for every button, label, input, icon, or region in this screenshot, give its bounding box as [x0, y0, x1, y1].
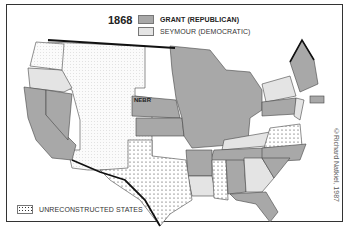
midwest-republican [170, 46, 262, 148]
state-rhode-island-callout [310, 96, 324, 103]
state-washington [30, 42, 64, 70]
state-new-york [262, 76, 296, 102]
state-florida [230, 192, 278, 222]
legend-label-republican: GRANT (REPUBLICAN) [160, 16, 239, 23]
state-mississippi [212, 160, 228, 200]
state-new-jersey [294, 98, 304, 120]
state-virginia [264, 124, 302, 148]
democratic-swatch [138, 27, 154, 36]
state-alabama [226, 160, 246, 194]
state-kansas [136, 118, 184, 136]
legend-item-unreconstructed: UNRECONSTRUCTED STATES [17, 205, 143, 214]
election-year: 1868 [108, 14, 132, 26]
state-label-nebraska: NEBR [134, 97, 151, 103]
legend-item-republican: GRANT (REPUBLICAN) [138, 15, 239, 24]
legend-label-democratic: SEYMOUR (DEMOCRATIC) [160, 28, 251, 35]
state-arkansas [186, 150, 212, 176]
copyright-credit: ©Richard Natkiel, 1987 [333, 128, 340, 202]
legend-label-unreconstructed: UNRECONSTRUCTED STATES [39, 206, 143, 213]
unreconstructed-swatch [17, 205, 33, 214]
state-louisiana [188, 176, 216, 196]
republican-swatch [138, 15, 154, 24]
new-england [290, 40, 318, 92]
legend-item-democratic: SEYMOUR (DEMOCRATIC) [138, 27, 251, 36]
